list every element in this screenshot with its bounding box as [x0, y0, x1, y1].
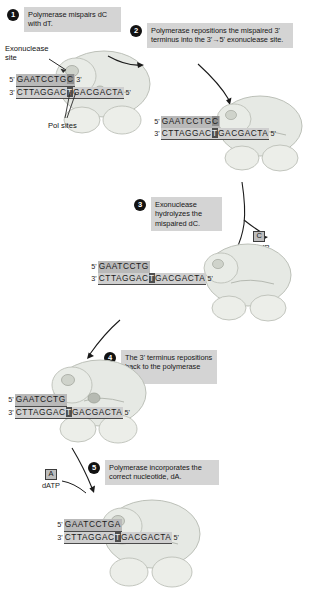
duplex-2-bottom-3prime: 3'	[153, 128, 161, 140]
step-callout-2: Polymerase repositions the mispaired 3' …	[147, 23, 293, 48]
duplex-2: 5' GAATCCTGC 3' CTTAGGACTGACGACTA 5'	[153, 116, 277, 140]
dcmp-nucleotide: C dCMP	[249, 224, 270, 252]
step-number-1: 1	[7, 9, 19, 21]
duplex-5-bottom-bases-a: CTTAGGAC	[65, 532, 115, 542]
duplex-2-top-bases: GAATCCTG	[162, 116, 212, 126]
duplex-3-bottom-5prime: 5'	[206, 273, 214, 285]
dcmp-label: dCMP	[249, 243, 270, 252]
duplex-1-bottom-sequence: CTTAGGACTGACGACTA	[16, 87, 125, 100]
duplex-3-bottom-bases-a: CTTAGGAC	[99, 273, 149, 283]
duplex-5-top-5prime: 5'	[56, 519, 64, 531]
duplex-4-bottom-strand: 3' CTTAGGACTGACGACTA 5'	[7, 407, 131, 420]
duplex-1-bottom-5prime: 5'	[124, 87, 132, 99]
duplex-1-top-bases: GAATCCTG	[17, 74, 67, 84]
duplex-1-top-strand: 5' GAATCCTGC 3'	[8, 74, 132, 87]
duplex-2-bottom-bases-a: CTTAGGAC	[162, 128, 212, 138]
duplex-2-bottom-strand: 3' CTTAGGACTGACGACTA 5'	[153, 128, 277, 141]
duplex-4-top-5prime: 5'	[7, 394, 15, 406]
duplex-5-bottom-strand: 3' CTTAGGACTGACGACTA 5'	[56, 532, 180, 545]
duplex-1-top-sequence: GAATCCTGC	[16, 74, 75, 87]
duplex-2-bottom-5prime: 5'	[269, 128, 277, 140]
duplex-3-bottom-bases-b: GACGACTA	[155, 273, 205, 283]
step-callout-1: Polymerase mispairs dC with dT.	[24, 7, 121, 32]
duplex-3: 5' GAATCCTG 3' CTTAGGACTGACGACTA 5'	[90, 261, 214, 285]
datp-entry-arrow	[60, 477, 98, 503]
exonuclease-site-label-line1: Exonuclease	[5, 44, 48, 53]
duplex-4-top-bases: GAATCCTG	[16, 394, 66, 404]
step-number-2: 2	[130, 25, 142, 37]
duplex-5-top-sequence: GAATCCTGA	[64, 519, 122, 532]
duplex-2-top-strand: 5' GAATCCTGC	[153, 116, 277, 128]
arrow-step3-to-step4	[78, 318, 124, 368]
duplex-3-top-5prime: 5'	[90, 261, 98, 273]
duplex-1-bottom-3prime: 3'	[8, 87, 16, 99]
duplex-1-bottom-bases-a: CTTAGGAC	[17, 87, 67, 97]
duplex-3-bottom-3prime: 3'	[90, 273, 98, 285]
duplex-3-top-sequence: GAATCCTG	[98, 261, 150, 273]
step-callout-4: The 3' terminus repositions back to the …	[121, 350, 217, 384]
duplex-5-bottom-5prime: 5'	[172, 532, 180, 544]
step-callout-5: Polymerase incorporates the correct nucl…	[105, 460, 219, 485]
duplex-1-bottom-strand: 3' CTTAGGACTGACGACTA 5'	[8, 87, 132, 100]
duplex-5-top-bases: GAATCCTG	[65, 519, 115, 529]
duplex-5-new-base: A	[115, 519, 121, 529]
duplex-5-bottom-3prime: 3'	[56, 532, 64, 544]
duplex-1-top-3prime: 3'	[75, 74, 83, 86]
arrow-step4-to-step5	[62, 446, 108, 498]
dcmp-base-chip: C	[253, 231, 265, 243]
datp-nucleotide: A dATP	[42, 462, 60, 490]
duplex-4-bottom-5prime: 5'	[123, 407, 131, 419]
exonuclease-site-label: Exonuclease site	[5, 44, 48, 63]
duplex-1: 5' GAATCCTGC 3' 3' CTTAGGACTGACGACTA 5'	[8, 74, 132, 99]
duplex-2-bottom-bases-b: GACGACTA	[218, 128, 268, 138]
datp-label: dATP	[42, 481, 60, 490]
duplex-4-bottom-sequence: CTTAGGACTGACGACTA	[15, 407, 124, 420]
duplex-2-bottom-sequence: CTTAGGACTGACGACTA	[161, 128, 270, 141]
duplex-5: 5' GAATCCTGA 3' CTTAGGACTGACGACTA 5'	[56, 519, 180, 544]
duplex-5-bottom-bases-b: GACGACTA	[121, 532, 171, 542]
arrow-step2-to-duplex2	[196, 62, 246, 110]
exonuclease-site-label-line2: site	[5, 53, 17, 62]
duplex-4-bottom-bases-a: CTTAGGAC	[16, 407, 66, 417]
step-number-4: 4	[104, 352, 116, 364]
step-number-3: 3	[134, 199, 146, 211]
duplex-1-mispaired-base: C	[67, 74, 74, 84]
duplex-4-top-strand: 5' GAATCCTG	[7, 394, 131, 407]
exonuclease-site-leader-line	[48, 57, 78, 75]
duplex-3-top-strand: 5' GAATCCTG	[90, 261, 214, 273]
duplex-2-mispaired-base: C	[212, 116, 219, 126]
duplex-3-bottom-sequence: CTTAGGACTGACGACTA	[98, 273, 207, 286]
polymerase-enzyme-3	[200, 240, 300, 330]
duplex-3-bottom-strand: 3' CTTAGGACTGACGACTA 5'	[90, 273, 214, 286]
duplex-3-top-bases: GAATCCTG	[99, 261, 149, 271]
datp-base-chip: A	[45, 469, 56, 481]
arrow-step1-to-step2	[106, 54, 148, 72]
duplex-4-top-sequence: GAATCCTG	[15, 394, 67, 407]
duplex-5-top-strand: 5' GAATCCTGA	[56, 519, 180, 532]
duplex-4: 5' GAATCCTG 3' CTTAGGACTGACGACTA 5'	[7, 394, 131, 419]
duplex-1-top-5prime: 5'	[8, 74, 16, 86]
duplex-1-bottom-bases-b: GACGACTA	[73, 87, 123, 97]
pol-sites-label: Pol sites	[48, 121, 77, 130]
duplex-5-bottom-sequence: CTTAGGACTGACGACTA	[64, 532, 173, 545]
duplex-2-top-sequence: GAATCCTGC	[161, 116, 220, 128]
step-number-5: 5	[88, 462, 100, 474]
step-callout-3: Exonuclease hydrolyzes the mispaired dC.	[151, 197, 222, 231]
duplex-4-bottom-3prime: 3'	[7, 407, 15, 419]
duplex-2-top-5prime: 5'	[153, 116, 161, 128]
duplex-4-bottom-bases-b: GACGACTA	[72, 407, 122, 417]
